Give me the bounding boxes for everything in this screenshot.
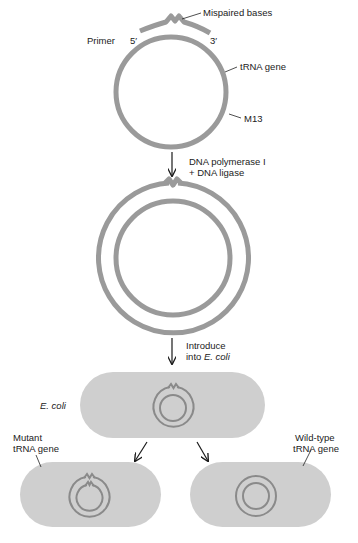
diagram-canvas	[0, 0, 358, 543]
m13-leader	[229, 114, 241, 118]
step2-prefix: into	[186, 351, 204, 362]
step2-line2: into E. coli	[186, 351, 230, 362]
wildtype-line1: Wild-type	[295, 432, 335, 443]
mutant-line1: Mutant	[13, 432, 42, 443]
ecoli-label: E. coli	[40, 400, 66, 411]
five-prime-label: 5′	[130, 35, 137, 46]
ecoli-cell-wildtype	[190, 462, 331, 527]
step1-line2: + DNA ligase	[189, 167, 244, 178]
primer-label: Primer	[87, 35, 115, 46]
mutant-line2: tRNA gene	[13, 443, 59, 454]
trna-gene-leader	[225, 67, 237, 72]
m13-label: M13	[244, 113, 262, 124]
mispaired-bases-label: Mispaired bases	[203, 7, 272, 18]
arrow-to-mutant	[135, 442, 147, 461]
wildtype-line2: tRNA gene	[293, 443, 339, 454]
m13-circle	[116, 37, 226, 147]
trna-gene-label: tRNA gene	[240, 61, 286, 72]
step2-line1: Introduce	[186, 340, 226, 351]
mispaired-bases-leader	[182, 13, 201, 19]
arrow-to-wildtype	[197, 442, 208, 461]
ecoli-cell-top	[80, 372, 265, 438]
three-prime-label: 3′	[210, 35, 217, 46]
step2-organism: E. coli	[204, 351, 230, 362]
double-stranded-circle	[99, 179, 249, 333]
step1-line1: DNA polymerase I	[189, 156, 266, 167]
primer-strand	[140, 16, 210, 33]
